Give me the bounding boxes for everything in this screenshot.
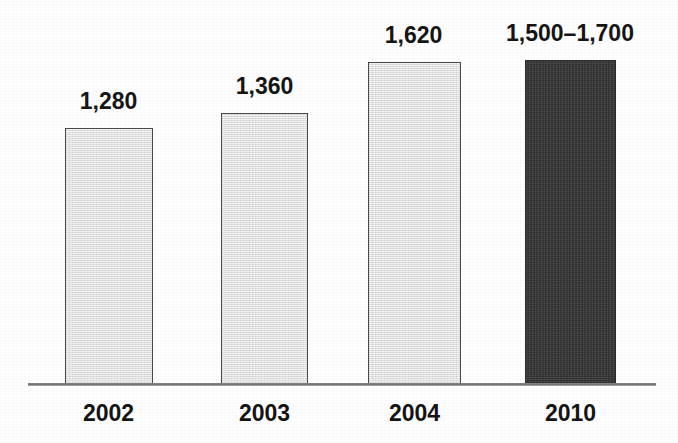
plot-area: 1,280 1,360 1,620 1,500–1,700 2002 2003 … [0,0,678,443]
x-tick-label-2010: 2010 [508,400,633,426]
bar-2004 [368,62,461,384]
x-tick-label-2003: 2003 [202,400,327,426]
bar-chart-figure: 1,280 1,360 1,620 1,500–1,700 2002 2003 … [0,0,678,443]
bar-value-label-2004: 1,620 [351,22,476,48]
bar-value-label-2010: 1,500–1,700 [490,20,650,46]
x-axis-line [28,383,656,386]
x-tick-label-2002: 2002 [46,400,171,426]
bar-value-label-2002: 1,280 [46,88,171,114]
bar-2010 [525,60,616,384]
bar-value-label-2003: 1,360 [202,73,327,99]
bar-2002 [65,128,153,384]
x-tick-label-2004: 2004 [352,400,477,426]
bar-2003 [221,113,308,384]
